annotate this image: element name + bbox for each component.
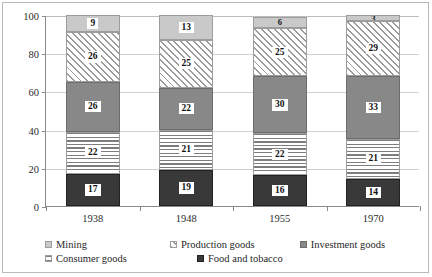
y-axis-tick-mark-20 (42, 169, 46, 170)
bar-segment-value-1955-investment-goods: 30 (272, 99, 288, 111)
figure-frame: 1008060402009262622171938132522211919486… (2, 2, 429, 273)
bar-segment-1970-food-and-tobacco[interactable]: 14 (346, 179, 400, 206)
bar-segment-1938-consumer-goods[interactable]: 22 (66, 132, 120, 174)
x-axis-tick-mark-1970 (327, 206, 328, 211)
bar-segment-1955-investment-goods[interactable]: 30 (253, 76, 307, 133)
bar-segment-1938-food-and-tobacco[interactable]: 17 (66, 174, 120, 206)
bar-segment-1955-consumer-goods[interactable]: 22 (253, 133, 307, 175)
y-axis-tick-mark-80 (42, 54, 46, 55)
bar-segment-1955-mining[interactable]: 6 (253, 17, 307, 28)
bar-segment-value-1970-consumer-goods: 21 (366, 153, 382, 165)
bar-segment-value-1955-production-goods: 25 (272, 47, 288, 59)
bar-segment-value-1938-investment-goods: 26 (85, 101, 101, 113)
legend-label-investment-goods: Investment goods (311, 239, 385, 250)
bar-segment-value-1938-food-and-tobacco: 17 (85, 184, 101, 196)
bar-segment-1938-production-goods[interactable]: 26 (66, 32, 120, 82)
bar-segment-1948-production-goods[interactable]: 25 (159, 40, 213, 88)
legend-item-consumer-goods[interactable]: Consumer goods (45, 253, 197, 264)
legend-label-consumer-goods: Consumer goods (56, 253, 127, 264)
x-axis-label-1938: 1938 (82, 213, 103, 224)
bar-1970[interactable]: 329332114 (346, 15, 400, 206)
legend-item-production-goods[interactable]: Production goods (170, 239, 300, 250)
x-axis-label-1955: 1955 (269, 213, 290, 224)
legend-label-production-goods: Production goods (181, 239, 255, 250)
bar-segment-value-1948-consumer-goods: 21 (179, 144, 195, 156)
mining-swatch (45, 241, 52, 248)
bar-segment-value-1970-investment-goods: 33 (366, 102, 382, 114)
bar-1948[interactable]: 1325222119 (159, 15, 213, 206)
bar-segment-value-1955-consumer-goods: 22 (272, 149, 288, 161)
bar-segment-1948-food-and-tobacco[interactable]: 19 (159, 170, 213, 206)
bar-segment-value-1955-food-and-tobacco: 16 (272, 185, 288, 197)
x-axis-tick-mark-1938 (46, 206, 47, 211)
bar-segment-value-1938-production-goods: 26 (85, 51, 101, 63)
bar-segment-1970-consumer-goods[interactable]: 21 (346, 139, 400, 179)
x-axis-tick-mark-1955 (233, 206, 234, 211)
bar-segment-value-1938-consumer-goods: 22 (85, 147, 101, 159)
bar-segment-1970-production-goods[interactable]: 29 (346, 21, 400, 76)
production-goods-swatch (170, 241, 177, 248)
bar-segment-value-1970-production-goods: 29 (366, 43, 382, 55)
y-axis-tick-mark-60 (42, 92, 46, 93)
chart-legend: Mining Production goods Investment goods… (45, 239, 423, 267)
y-axis-tick-mark-40 (42, 131, 46, 132)
bar-segment-value-1955-mining: 6 (276, 18, 284, 27)
legend-item-mining[interactable]: Mining (45, 239, 170, 250)
legend-item-food-and-tobacco[interactable]: Food and tobacco (197, 253, 355, 264)
x-axis-label-1970: 1970 (363, 213, 384, 224)
x-axis-tick-mark-1948 (140, 206, 141, 211)
food-and-tobacco-swatch (197, 255, 204, 262)
bar-segment-value-1938-mining: 9 (87, 18, 98, 30)
investment-goods-swatch (300, 241, 307, 248)
bar-segment-value-1948-food-and-tobacco: 19 (179, 182, 195, 194)
bar-segment-value-1948-mining: 13 (179, 22, 195, 34)
bar-1938[interactable]: 926262217 (66, 15, 120, 206)
chart-figure: 1008060402009262622171938132522211919486… (0, 0, 432, 277)
bar-segment-value-1970-food-and-tobacco: 14 (366, 187, 382, 199)
legend-label-food-and-tobacco: Food and tobacco (208, 253, 283, 264)
consumer-goods-swatch (45, 255, 52, 262)
bar-segment-1948-consumer-goods[interactable]: 21 (159, 130, 213, 170)
bar-segment-value-1948-production-goods: 25 (179, 58, 195, 70)
bar-segment-1970-investment-goods[interactable]: 33 (346, 76, 400, 139)
bar-segment-1948-mining[interactable]: 13 (159, 15, 213, 40)
x-axis-label-1948: 1948 (176, 213, 197, 224)
bar-segment-1955-food-and-tobacco[interactable]: 16 (253, 175, 307, 206)
x-axis-tick-mark-end (420, 206, 421, 211)
y-axis-tick-mark-100 (42, 16, 46, 17)
bar-segment-1948-investment-goods[interactable]: 22 (159, 88, 213, 130)
legend-item-investment-goods[interactable]: Investment goods (300, 239, 423, 250)
bar-1955[interactable]: 625302216 (253, 17, 307, 206)
legend-row-2: Consumer goods Food and tobacco (45, 253, 423, 264)
bar-segment-1938-mining[interactable]: 9 (66, 15, 120, 32)
bar-segment-1955-production-goods[interactable]: 25 (253, 28, 307, 76)
legend-row-1: Mining Production goods Investment goods (45, 239, 423, 250)
bar-segment-1938-investment-goods[interactable]: 26 (66, 82, 120, 132)
plot-area: 1008060402009262622171938132522211919486… (45, 16, 419, 207)
legend-label-mining: Mining (56, 239, 87, 250)
bar-segment-value-1948-investment-goods: 22 (179, 103, 195, 115)
